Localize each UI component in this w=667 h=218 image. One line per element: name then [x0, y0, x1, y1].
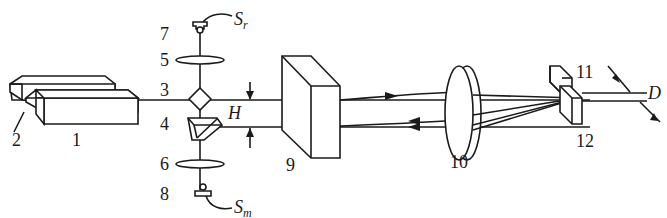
prism-4: [188, 118, 222, 140]
beam-splitter-3: [189, 88, 211, 110]
optical-diagram: 2 1 7 5 3 4 6 8 Sr Sm H 9 10 11 12 D: [0, 0, 667, 218]
diagram-svg: 2 1 7 5 3 4 6 8 Sr Sm H 9 10 11 12 D: [0, 0, 667, 218]
label-1: 1: [72, 130, 81, 150]
label-10: 10: [450, 152, 468, 172]
label-7: 7: [160, 24, 169, 44]
lens-10: [445, 66, 481, 160]
block-9: [282, 56, 340, 158]
label-sm: Sm: [234, 197, 252, 218]
label-5: 5: [160, 50, 169, 70]
label-12: 12: [576, 131, 594, 151]
beam-out-upper: [340, 92, 460, 100]
leader-line-2: [14, 112, 24, 132]
label-6: 6: [160, 154, 169, 174]
label-sr: Sr: [234, 9, 248, 32]
beam-return: [340, 120, 460, 126]
block-12: [560, 86, 582, 124]
laser-block-1: [26, 90, 138, 124]
label-8: 8: [160, 184, 169, 204]
label-3: 3: [160, 80, 169, 100]
lens-6: [176, 160, 224, 168]
arrow-d-top: [608, 66, 630, 92]
label-4: 4: [160, 114, 169, 134]
lens-5: [176, 56, 224, 64]
label-11: 11: [576, 62, 593, 82]
label-9: 9: [286, 155, 295, 175]
label-d: D: [647, 83, 661, 103]
label-h: H: [227, 103, 242, 123]
detector-sm: [195, 184, 232, 209]
detector-sr: [193, 14, 232, 33]
label-2: 2: [12, 130, 21, 150]
